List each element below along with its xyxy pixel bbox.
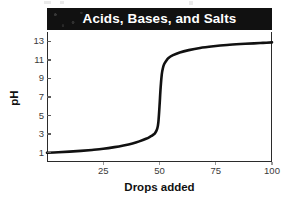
y-axis-tick-mark (47, 152, 51, 153)
y-axis-tick-label: 13 (28, 36, 44, 46)
x-axis-tick-mark (159, 162, 160, 165)
y-axis-tick-mark (47, 115, 51, 116)
chart-figure: Acids, Bases, and Salts 135791113 pH 255… (0, 0, 287, 201)
y-axis-tick-mark (47, 59, 51, 60)
scan-artifact (44, 1, 51, 4)
plot-area (47, 32, 272, 162)
y-axis-title: pH (3, 87, 27, 109)
y-axis-tick-mark (47, 78, 51, 79)
y-axis-tick-label: 3 (28, 129, 44, 139)
x-axis-tick-label: 100 (257, 166, 287, 176)
y-axis-tick-labels: 135791113 (26, 32, 44, 162)
y-axis-tick-mark (47, 41, 51, 42)
x-axis-tick-label: 50 (145, 166, 175, 176)
x-axis-tick-mark (271, 162, 272, 165)
y-axis-tick-label: 11 (28, 55, 44, 65)
x-axis-title: Drops added (47, 182, 272, 194)
y-axis-tick-label: 9 (28, 73, 44, 83)
x-axis-tick-label: 25 (88, 166, 118, 176)
x-axis-tick-label: 75 (201, 166, 231, 176)
chart-title-band: Acids, Bases, and Salts (47, 8, 272, 30)
scan-artifact (60, 1, 64, 4)
y-axis-tick-label: 1 (28, 148, 44, 158)
y-axis-tick-label: 5 (28, 111, 44, 121)
y-axis-tick-mark (47, 96, 51, 97)
x-axis-tick-mark (215, 162, 216, 165)
y-axis-tick-label: 7 (28, 92, 44, 102)
scan-artifact (189, 1, 193, 5)
titration-curve (47, 42, 272, 152)
x-axis-tick-mark (103, 162, 104, 165)
chart-title: Acids, Bases, and Salts (83, 12, 237, 26)
y-axis-tick-mark (47, 133, 51, 134)
